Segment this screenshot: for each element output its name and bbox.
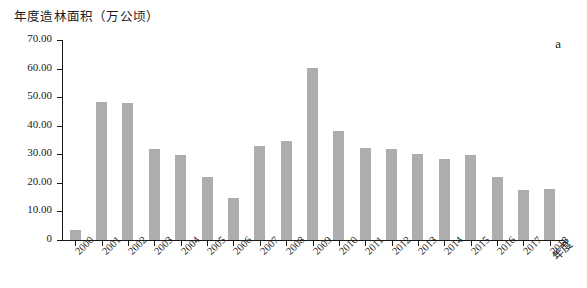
bar bbox=[149, 149, 160, 240]
plot-area bbox=[62, 40, 563, 240]
bar bbox=[439, 159, 450, 240]
bar bbox=[518, 190, 529, 240]
bar bbox=[412, 154, 423, 240]
y-axis-tick-label: 30.00 bbox=[27, 146, 52, 158]
y-axis-tick-label: 10.00 bbox=[27, 203, 52, 215]
bar bbox=[333, 131, 344, 240]
bar bbox=[360, 148, 371, 240]
y-axis-tick-label: 50.00 bbox=[27, 89, 52, 101]
bar bbox=[386, 149, 397, 240]
y-axis-tick-label: 70.00 bbox=[27, 32, 52, 44]
bar bbox=[281, 141, 292, 240]
y-axis-tick-label: 40.00 bbox=[27, 118, 52, 130]
bar-chart-figure: 年度造林面积（万公顷） a 010.0020.0030.0040.0050.00… bbox=[0, 0, 587, 288]
bar bbox=[122, 103, 133, 240]
bar bbox=[492, 177, 503, 240]
y-axis-tick-mark bbox=[57, 240, 62, 241]
bar bbox=[544, 189, 555, 240]
bar bbox=[70, 230, 81, 240]
bar bbox=[254, 146, 265, 240]
bar bbox=[465, 155, 476, 240]
bar bbox=[202, 177, 213, 240]
y-axis-tick-label: 20.00 bbox=[27, 175, 52, 187]
bar bbox=[228, 198, 239, 240]
bar bbox=[175, 155, 186, 240]
y-axis-tick-label: 0 bbox=[47, 232, 53, 244]
y-axis-tick-label: 60.00 bbox=[27, 61, 52, 73]
bar bbox=[307, 68, 318, 240]
bar bbox=[96, 102, 107, 240]
chart-title: 年度造林面积（万公顷） bbox=[14, 6, 159, 25]
